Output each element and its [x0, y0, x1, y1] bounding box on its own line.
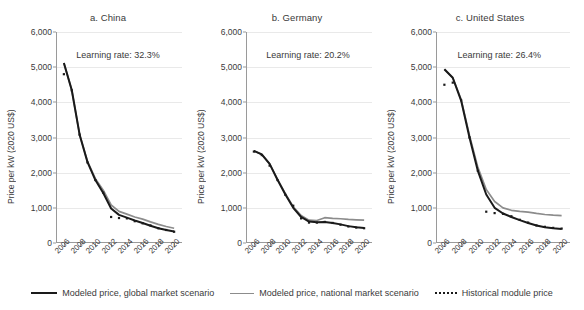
- y-axis-tick-label: 3,000: [411, 133, 432, 143]
- series-marker-historical: [324, 221, 326, 223]
- series-marker-historical: [510, 215, 512, 217]
- series-marker-historical: [110, 216, 112, 218]
- series-marker-historical: [253, 150, 255, 152]
- legend-label: Historical module price: [462, 288, 553, 298]
- series-marker-historical: [79, 134, 81, 136]
- y-axis-tick-label: 2,000: [31, 168, 52, 178]
- plot-area: 01,0002,0003,0004,0005,0006,000200620082…: [246, 32, 372, 243]
- panel-title: c. United States: [380, 12, 584, 23]
- series-marker-historical: [535, 224, 537, 226]
- series-marker-historical: [561, 227, 563, 229]
- series-marker-historical: [316, 222, 318, 224]
- y-axis-label: Price per kW (2020 US$): [384, 72, 398, 242]
- series-line-global: [64, 63, 174, 231]
- series-marker-historical: [276, 179, 278, 181]
- series-marker-historical: [71, 89, 73, 91]
- series-marker-historical: [332, 222, 334, 224]
- series-marker-historical: [468, 136, 470, 138]
- legend-label: Modeled price, global market scenario: [62, 288, 214, 298]
- series-marker-historical: [173, 231, 175, 233]
- series-marker-historical: [494, 212, 496, 214]
- series-marker-historical: [552, 227, 554, 229]
- y-axis-tick-label: 1,000: [411, 203, 432, 213]
- series-marker-historical: [102, 192, 104, 194]
- series-marker-historical: [544, 226, 546, 228]
- series-marker-historical: [261, 154, 263, 156]
- series-marker-historical: [460, 99, 462, 101]
- series-line-global: [444, 69, 561, 229]
- series-marker-historical: [63, 73, 65, 75]
- series-marker-historical: [502, 213, 504, 215]
- chart-panel-germany: b. Germany Price per kW (2020 US$) 01,00…: [190, 0, 386, 280]
- series-line-national: [444, 69, 561, 215]
- series-marker-historical: [86, 161, 88, 163]
- legend-item-national: Modeled price, national market scenario: [230, 288, 419, 298]
- chart-panel-china: a. China Price per kW (2020 US$) 01,0002…: [0, 0, 196, 280]
- y-axis-tick-label: 0: [237, 238, 242, 248]
- y-axis-tick-label: 4,000: [31, 97, 52, 107]
- series-marker-historical: [347, 225, 349, 227]
- plot-area: 01,0002,0003,0004,0005,0006,000200620082…: [436, 32, 570, 243]
- series-marker-historical: [292, 205, 294, 207]
- series-marker-historical: [452, 82, 454, 84]
- y-axis-tick-label: 2,000: [411, 168, 432, 178]
- series-line-national: [254, 151, 364, 221]
- series-marker-historical: [94, 179, 96, 181]
- y-axis-tick-label: 0: [47, 238, 52, 248]
- series-marker-historical: [134, 220, 136, 222]
- series-canvas: [246, 32, 372, 243]
- plot-area: 01,0002,0003,0004,0005,0006,000200620082…: [56, 32, 182, 243]
- y-axis-tick-label: 3,000: [221, 133, 242, 143]
- series-marker-historical: [339, 224, 341, 226]
- panel-title: b. Germany: [190, 12, 386, 23]
- y-axis-tick-label: 6,000: [411, 27, 432, 37]
- y-axis-tick-label: 6,000: [221, 27, 242, 37]
- y-axis-tick-label: 2,000: [221, 168, 242, 178]
- series-marker-historical: [149, 224, 151, 226]
- series-marker-historical: [363, 227, 365, 229]
- legend-item-historical: Historical module price: [435, 288, 553, 298]
- series-marker-historical: [300, 217, 302, 219]
- series-line-global: [254, 151, 364, 228]
- y-axis-tick-label: 0: [427, 238, 432, 248]
- figure-root: a. China Price per kW (2020 US$) 01,0002…: [0, 0, 584, 310]
- legend-item-global: Modeled price, global market scenario: [31, 288, 214, 298]
- series-marker-historical: [157, 227, 159, 229]
- legend-swatch-global-line: [31, 292, 57, 294]
- series-canvas: [436, 32, 570, 243]
- series-marker-historical: [308, 222, 310, 224]
- series-marker-historical: [355, 226, 357, 228]
- series-marker-historical: [142, 222, 144, 224]
- series-marker-historical: [269, 165, 271, 167]
- legend-swatch-national-line: [230, 293, 254, 294]
- chart-panel-united-states: c. United States Price per kW (2020 US$)…: [380, 0, 584, 280]
- y-axis-tick-label: 4,000: [411, 97, 432, 107]
- series-marker-historical: [443, 84, 445, 86]
- series-marker-historical: [477, 170, 479, 172]
- y-axis-tick-label: 5,000: [411, 62, 432, 72]
- chart-legend: Modeled price, global market scenario Mo…: [0, 283, 584, 303]
- y-axis-tick-label: 5,000: [221, 62, 242, 72]
- series-line-national: [64, 63, 174, 228]
- series-marker-historical: [527, 222, 529, 224]
- series-marker-historical: [165, 229, 167, 231]
- series-marker-historical: [126, 217, 128, 219]
- y-axis-tick-label: 3,000: [31, 133, 52, 143]
- series-canvas: [56, 32, 182, 243]
- y-axis-tick-label: 6,000: [31, 27, 52, 37]
- legend-swatch-historical-dots: [435, 292, 457, 294]
- series-marker-historical: [118, 217, 120, 219]
- y-axis-tick-label: 1,000: [221, 203, 242, 213]
- series-marker-historical: [284, 194, 286, 196]
- series-marker-historical: [519, 219, 521, 221]
- panel-title: a. China: [0, 12, 196, 23]
- legend-label: Modeled price, national market scenario: [259, 288, 419, 298]
- y-axis-tick-label: 1,000: [31, 203, 52, 213]
- y-axis-label: Price per kW (2020 US$): [4, 72, 18, 242]
- y-axis-tick-label: 4,000: [221, 97, 242, 107]
- y-axis-tick-label: 5,000: [31, 62, 52, 72]
- y-axis-label: Price per kW (2020 US$): [194, 72, 208, 242]
- series-marker-historical: [485, 211, 487, 213]
